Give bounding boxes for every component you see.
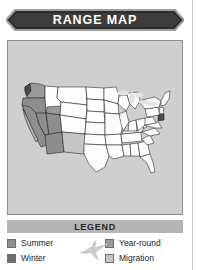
state-new-england bbox=[161, 91, 170, 106]
legend-header-label: LEGEND bbox=[74, 222, 116, 232]
state-new-jersey bbox=[159, 107, 164, 114]
state-florida bbox=[140, 154, 155, 173]
column-rule bbox=[192, 0, 193, 270]
state-north-carolina bbox=[142, 128, 160, 136]
legend-label-winter: Winter bbox=[21, 254, 46, 263]
state-texas bbox=[84, 144, 109, 172]
state-new-mexico bbox=[62, 132, 85, 154]
legend-swatch-winter bbox=[7, 254, 16, 263]
state-arkansas bbox=[105, 134, 122, 145]
state-maryland-delaware bbox=[158, 114, 164, 121]
legend-header: LEGEND bbox=[7, 220, 183, 233]
state-indiana bbox=[128, 120, 137, 132]
range-map-figure: RANGE MAP bbox=[0, 0, 197, 270]
flying-bird-icon bbox=[76, 239, 112, 263]
state-arizona bbox=[45, 132, 64, 154]
state-south-dakota bbox=[87, 99, 104, 112]
legend-label-migration: Migration bbox=[119, 254, 154, 263]
state-nebraska bbox=[86, 111, 105, 123]
state-utah bbox=[46, 113, 62, 135]
us-range-map bbox=[16, 76, 174, 180]
state-kansas bbox=[85, 122, 105, 135]
legend-column-right: Year-round Migration bbox=[105, 236, 183, 266]
state-north-dakota bbox=[86, 87, 104, 100]
legend-item-winter: Winter bbox=[7, 251, 85, 266]
legend-column-left: Summer Winter bbox=[7, 236, 85, 266]
page-title: RANGE MAP bbox=[6, 8, 184, 32]
map-panel bbox=[7, 40, 183, 215]
legend-swatch-summer bbox=[7, 239, 16, 248]
legend-item-summer: Summer bbox=[7, 236, 85, 251]
title-banner: RANGE MAP bbox=[6, 8, 184, 32]
legend-item-migration: Migration bbox=[105, 251, 183, 266]
legend-label-summer: Summer bbox=[21, 239, 53, 248]
legend-label-year-round: Year-round bbox=[119, 239, 161, 248]
legend-item-year-round: Year-round bbox=[105, 236, 183, 251]
state-oklahoma bbox=[84, 134, 106, 145]
